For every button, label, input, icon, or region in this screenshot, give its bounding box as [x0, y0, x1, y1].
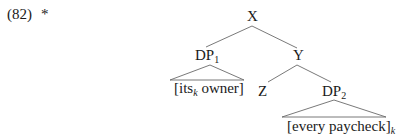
dp2-content-text: [every paycheck]	[287, 118, 391, 134]
triangle-dp2	[282, 100, 386, 117]
triangle-dp1	[170, 65, 244, 80]
node-dp2: DP2	[322, 84, 346, 101]
dp1-content-rest: owner]	[198, 80, 244, 96]
dp1-content: [itsk owner]	[174, 81, 244, 98]
node-dp1-label: DP	[195, 47, 214, 63]
node-dp2-label: DP	[322, 83, 341, 99]
branch-x-dp1	[206, 26, 252, 47]
branch-y-z	[268, 65, 297, 82]
dp2-index: k	[391, 125, 395, 136]
node-z: Z	[258, 84, 267, 99]
node-y: Y	[293, 48, 304, 63]
node-dp2-subscript: 2	[341, 90, 346, 101]
node-x: X	[247, 9, 258, 24]
node-dp1: DP1	[195, 48, 219, 65]
dp1-content-open: [its	[174, 80, 193, 96]
branch-x-y	[252, 26, 297, 48]
node-dp1-subscript: 1	[214, 54, 219, 65]
dp2-content: [every paycheck]k	[287, 119, 395, 136]
branch-y-dp2	[297, 65, 331, 82]
